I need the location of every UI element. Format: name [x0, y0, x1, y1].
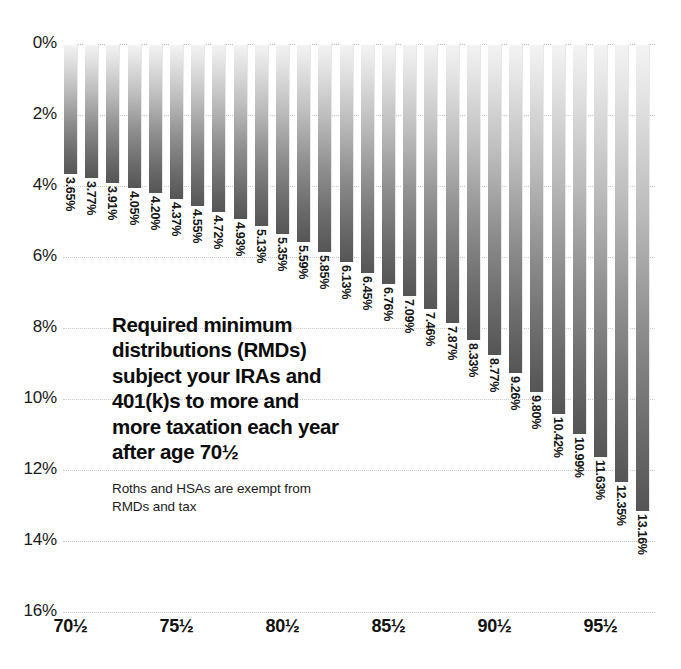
bar-cap	[128, 44, 141, 47]
bar-cap	[64, 44, 77, 47]
bar	[254, 44, 269, 226]
bar-cap	[191, 44, 204, 47]
bar	[635, 44, 650, 511]
bar-value-label: 5.85%	[317, 255, 331, 289]
bar-value-label: 13.16%	[635, 514, 649, 555]
bar-value-label: 12.35%	[614, 485, 628, 526]
bar	[105, 44, 120, 183]
y-axis-tick-label: 10%	[5, 388, 57, 408]
y-axis-tick-label: 4%	[5, 175, 57, 195]
bar-cap	[361, 44, 374, 47]
x-axis-tick-label: 80½	[265, 616, 299, 637]
bar-value-label: 9.26%	[508, 376, 522, 410]
bar-value-label: 7.46%	[423, 312, 437, 346]
bar-value-label: 4.93%	[233, 222, 247, 256]
bar-value-label: 4.05%	[127, 191, 141, 225]
bar-cap	[615, 44, 628, 47]
bar-cap	[340, 44, 353, 47]
bar-value-label: 7.09%	[402, 299, 416, 333]
bar-cap	[488, 44, 501, 47]
bar	[381, 44, 396, 284]
bar	[466, 44, 481, 340]
bar	[84, 44, 99, 178]
bar-cap	[318, 44, 331, 47]
bar	[317, 44, 332, 252]
bar-cap	[297, 44, 310, 47]
bar	[614, 44, 629, 482]
bar-value-label: 3.65%	[63, 177, 77, 211]
bar-cap	[149, 44, 162, 47]
bar-cap	[573, 44, 586, 47]
bar-cap	[170, 44, 183, 47]
y-axis-tick-label: 14%	[5, 530, 57, 550]
bar-cap	[212, 44, 225, 47]
bar-cap	[382, 44, 395, 47]
bar	[423, 44, 438, 309]
rmd-percentage-bar-chart: 0%2%4%6%8%10%12%14%16% 3.65%3.77%3.91%4.…	[0, 0, 681, 669]
x-axis-tick-label: 95½	[583, 616, 617, 637]
bar	[169, 44, 184, 199]
bar-cap	[552, 44, 565, 47]
bar-cap	[255, 44, 268, 47]
bar-value-label: 6.45%	[360, 276, 374, 310]
bar	[360, 44, 375, 273]
bar-value-label: 5.59%	[296, 245, 310, 279]
bar	[529, 44, 544, 392]
bar	[572, 44, 587, 434]
y-axis-tick-label: 2%	[5, 104, 57, 124]
y-axis-tick-label: 8%	[5, 317, 57, 337]
bar-cap	[403, 44, 416, 47]
bar-value-label: 8.77%	[487, 358, 501, 392]
y-axis-tick-label: 12%	[5, 459, 57, 479]
bar	[487, 44, 502, 355]
x-axis-tick-label: 70½	[53, 616, 87, 637]
bar-value-label: 7.87%	[445, 326, 459, 360]
y-axis-tick-label: 16%	[5, 601, 57, 621]
bar-value-label: 10.99%	[572, 437, 586, 478]
annotation-headline: Required minimum distributions (RMDs) su…	[112, 312, 344, 464]
bar-value-label: 10.42%	[551, 417, 565, 458]
bar-cap	[636, 44, 649, 47]
bar-value-label: 9.80%	[529, 395, 543, 429]
bar-cap	[106, 44, 119, 47]
x-axis-tick-label: 90½	[477, 616, 511, 637]
bar	[402, 44, 417, 296]
bar	[275, 44, 290, 234]
x-axis-tick-label: 75½	[159, 616, 193, 637]
bar-value-label: 6.13%	[339, 265, 353, 299]
bar	[296, 44, 311, 242]
bar	[551, 44, 566, 414]
bar-cap	[530, 44, 543, 47]
bar-cap	[594, 44, 607, 47]
bar-value-label: 11.63%	[593, 460, 607, 500]
bar-cap	[234, 44, 247, 47]
bar	[508, 44, 523, 373]
bar-value-label: 4.72%	[211, 215, 225, 249]
bar-value-label: 3.91%	[105, 186, 119, 220]
bar-cap	[85, 44, 98, 47]
bar	[63, 44, 78, 174]
gridline	[63, 541, 655, 542]
bar	[127, 44, 142, 188]
bar-value-label: 6.76%	[381, 287, 395, 321]
bar	[593, 44, 608, 457]
bar-value-label: 3.77%	[84, 181, 98, 215]
bar-value-label: 4.20%	[148, 196, 162, 230]
y-axis-tick-label: 0%	[5, 33, 57, 53]
bar-cap	[424, 44, 437, 47]
annotation-callout: Required minimum distributions (RMDs) su…	[112, 312, 344, 516]
bar-value-label: 5.35%	[275, 237, 289, 271]
bar-cap	[446, 44, 459, 47]
bar-value-label: 4.37%	[169, 202, 183, 236]
bar	[148, 44, 163, 193]
bar	[233, 44, 248, 219]
x-axis-tick-label: 85½	[371, 616, 405, 637]
bar-value-label: 4.55%	[190, 209, 204, 243]
bar-value-label: 8.33%	[466, 343, 480, 377]
y-axis-tick-label: 6%	[5, 246, 57, 266]
bar	[339, 44, 354, 262]
bar-cap	[276, 44, 289, 47]
bar-value-label: 5.13%	[254, 229, 268, 263]
bar	[190, 44, 205, 206]
gridline	[63, 612, 655, 613]
